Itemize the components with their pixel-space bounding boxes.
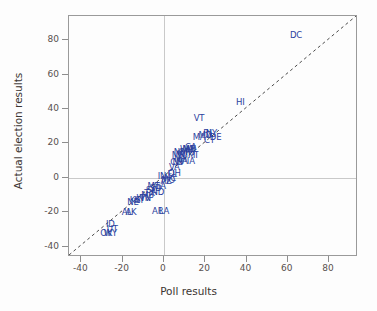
y-tick-label: 20: [48, 138, 59, 147]
x-tick-label: -40: [73, 264, 88, 273]
x-tick-label: 0: [160, 264, 166, 273]
x-tick-mark: [163, 256, 164, 262]
data-point-label: IA: [187, 156, 195, 165]
x-tick-mark: [122, 256, 123, 262]
data-point-label: WY: [104, 229, 117, 238]
data-point-label: MD: [198, 131, 211, 140]
x-tick-label: 60: [281, 264, 292, 273]
x-axis-label: Poll results: [0, 285, 377, 297]
x-tick-mark: [287, 256, 288, 262]
data-point-label: DC: [290, 31, 302, 40]
y-tick-label: -20: [44, 207, 59, 216]
y-tick-label: -40: [44, 241, 59, 250]
y-axis-label: Actual election results: [12, 21, 24, 241]
y-tick-label: 60: [48, 69, 59, 78]
x-tick-label: 40: [240, 264, 251, 273]
y-tick-label: 40: [48, 103, 59, 112]
x-tick-mark: [204, 256, 205, 262]
plot-area: DCHIVTMARINYDECTMDILCANJWAMEMIORWINMMNNH…: [68, 15, 357, 256]
x-tick-label: 80: [322, 264, 333, 273]
chart-figure: Actual election results -40-20020406080 …: [0, 0, 377, 311]
x-tick-label: -20: [114, 264, 129, 273]
y-tick-label: 0: [53, 172, 59, 181]
data-point-label: HI: [236, 98, 245, 107]
data-point-label: NE: [127, 198, 138, 207]
data-point-label: VT: [194, 113, 205, 122]
data-point-label: LA: [159, 206, 169, 215]
x-tick-mark: [80, 256, 81, 262]
data-point-label: AK: [125, 208, 136, 217]
x-tick-mark: [246, 256, 247, 262]
x-tick-label: 20: [199, 264, 210, 273]
y-tick-label: 80: [48, 35, 59, 44]
x-tick-mark: [328, 256, 329, 262]
